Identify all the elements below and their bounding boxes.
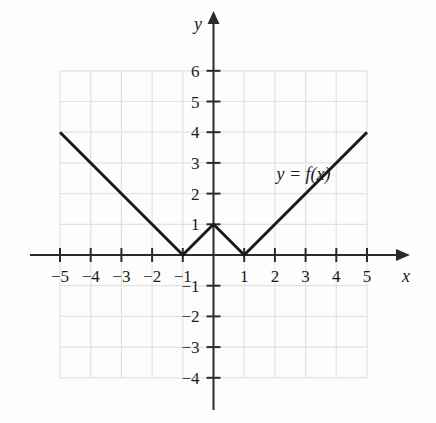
y-tick-label: 4 xyxy=(191,123,200,142)
y-tick-label: −4 xyxy=(181,369,200,388)
y-tick-label: −1 xyxy=(181,277,199,296)
y-tick-label: 3 xyxy=(191,154,200,173)
y-tick-label: 2 xyxy=(191,185,200,204)
x-tick-label: 4 xyxy=(332,267,341,286)
x-axis-label: x xyxy=(401,266,410,286)
x-tick-label: −5 xyxy=(51,267,69,286)
x-tick-label: 5 xyxy=(363,267,372,286)
y-tick-label: −3 xyxy=(181,338,199,357)
x-tick-label: −4 xyxy=(82,267,101,286)
x-axis-arrowhead xyxy=(396,249,410,261)
y-tick-label: 6 xyxy=(191,62,200,81)
y-tick-label: 5 xyxy=(191,93,200,112)
x-tick-label: 3 xyxy=(301,267,310,286)
curve-equation-label: y = f(x) xyxy=(274,164,330,185)
x-tick-label: −3 xyxy=(112,267,130,286)
x-tick-label: 1 xyxy=(240,267,249,286)
x-tick-label: 2 xyxy=(271,267,280,286)
figure-container: −5−4−3−2−112345654321−1−2−3−4 y x y = f(… xyxy=(0,0,436,423)
x-tick-label: −2 xyxy=(143,267,161,286)
y-axis-label: y xyxy=(192,14,202,34)
y-tick-label: 1 xyxy=(191,215,200,234)
y-axis-arrowhead xyxy=(208,11,220,24)
coordinate-plane-graph: −5−4−3−2−112345654321−1−2−3−4 y x y = f(… xyxy=(0,0,436,423)
y-tick-label: −2 xyxy=(181,307,199,326)
